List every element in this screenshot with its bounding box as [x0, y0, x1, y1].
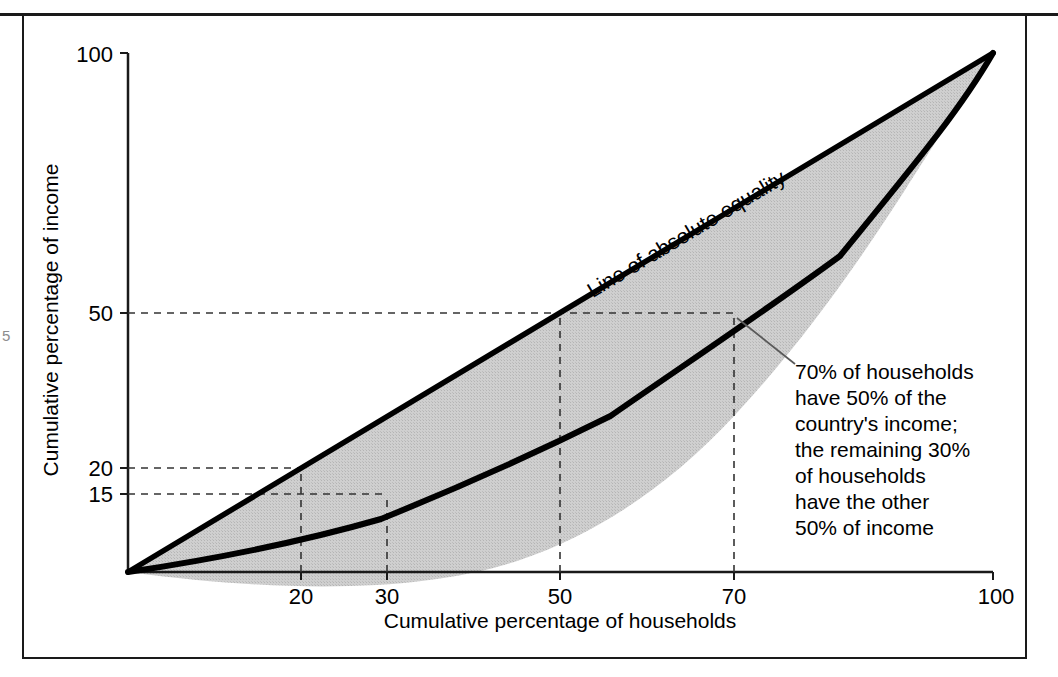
x-tick-label-70: 70: [722, 584, 746, 609]
x-tick-labels: 20 30 50 70 100: [289, 584, 1015, 609]
callout-line-6: have the other: [795, 490, 929, 513]
y-tick-labels: 15 20 50 100: [76, 42, 113, 507]
y-tick-label-100: 100: [76, 42, 113, 67]
y-tick-label-15: 15: [89, 482, 113, 507]
callout-line-3: country's income;: [795, 412, 958, 435]
x-axis-title: Cumulative percentage of households: [384, 609, 737, 632]
x-tick-label-30: 30: [375, 584, 399, 609]
callout-line-2: have 50% of the: [795, 386, 947, 409]
y-axis-title: Cumulative percentage of income: [39, 164, 62, 477]
x-tick-label-100: 100: [978, 584, 1015, 609]
x-tick-label-20: 20: [289, 584, 313, 609]
callout-text-block: 70% of households have 50% of the countr…: [795, 360, 974, 539]
callout-line-4: the remaining 30%: [795, 438, 970, 461]
callout-line-1: 70% of households: [795, 360, 974, 383]
y-tick-label-20: 20: [89, 456, 113, 481]
lorenz-chart: 20 30 50 70 100 15 20 50 100 Cumulative …: [0, 0, 1058, 677]
lorenz-curve-figure: 5: [0, 0, 1058, 677]
y-tick-label-50: 50: [89, 301, 113, 326]
callout-line-5: of households: [795, 464, 926, 487]
callout-line-7: 50% of income: [795, 516, 934, 539]
x-tick-label-50: 50: [548, 584, 572, 609]
